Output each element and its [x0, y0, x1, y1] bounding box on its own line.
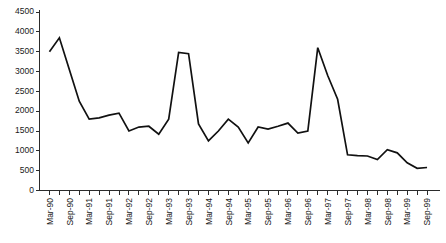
y-axis-tick-label: 3500: [15, 46, 34, 56]
x-axis-tick-label: Sep-96: [303, 198, 313, 226]
x-axis-tick-label: Sep-97: [343, 198, 353, 226]
y-axis-tick-label: 500: [20, 165, 34, 175]
x-axis-tick-label: Sep-98: [383, 198, 393, 226]
y-axis-tick-label: 1000: [15, 145, 34, 155]
x-axis-tick-label: Sep-94: [224, 198, 234, 226]
x-axis-tick-label: Sep-90: [65, 198, 75, 226]
x-axis-tick-label: Mar-92: [124, 198, 134, 225]
y-axis-tick-labels: 050010001500200025003000350040004500: [15, 6, 34, 195]
x-axis-tick-label: Sep-91: [104, 198, 114, 226]
y-axis-tick-label: 1500: [15, 125, 34, 135]
y-axis-tick-label: 4500: [15, 6, 34, 16]
chart-canvas: 050010001500200025003000350040004500 Mar…: [0, 0, 446, 243]
y-axis-tick-label: 2000: [15, 105, 34, 115]
y-axis-tick-label: 3000: [15, 66, 34, 76]
x-axis-tick-marks: [49, 191, 427, 195]
x-axis-tick-label: Mar-93: [164, 198, 174, 225]
y-axis-group: 050010001500200025003000350040004500: [15, 6, 39, 195]
x-axis-tick-label: Sep-95: [263, 198, 273, 226]
x-axis-tick-label: Mar-97: [323, 198, 333, 225]
x-axis-tick-label: Sep-93: [184, 198, 194, 226]
x-axis-tick-label: Mar-99: [402, 198, 412, 225]
x-axis-tick-label: Mar-94: [204, 198, 214, 225]
x-axis-tick-label: Mar-96: [283, 198, 293, 225]
data-series-line: [49, 38, 427, 169]
x-axis-group: Mar-90Sep-90Mar-91Sep-91Mar-92Sep-92Mar-…: [40, 191, 441, 226]
x-axis-tick-label: Sep-92: [144, 198, 154, 226]
y-axis-tick-label: 0: [29, 185, 34, 195]
y-axis-tick-label: 2500: [15, 86, 34, 96]
x-axis-tick-label: Mar-91: [84, 198, 94, 225]
x-axis-tick-label: Mar-90: [45, 198, 55, 225]
x-axis-tick-label: Sep-99: [422, 198, 432, 226]
x-axis-tick-label: Mar-95: [243, 198, 253, 225]
x-axis-tick-labels: Mar-90Sep-90Mar-91Sep-91Mar-92Sep-92Mar-…: [45, 198, 433, 226]
x-axis-tick-label: Mar-98: [363, 198, 373, 225]
line-chart: 050010001500200025003000350040004500 Mar…: [0, 0, 446, 243]
y-axis-tick-label: 4000: [15, 26, 34, 36]
